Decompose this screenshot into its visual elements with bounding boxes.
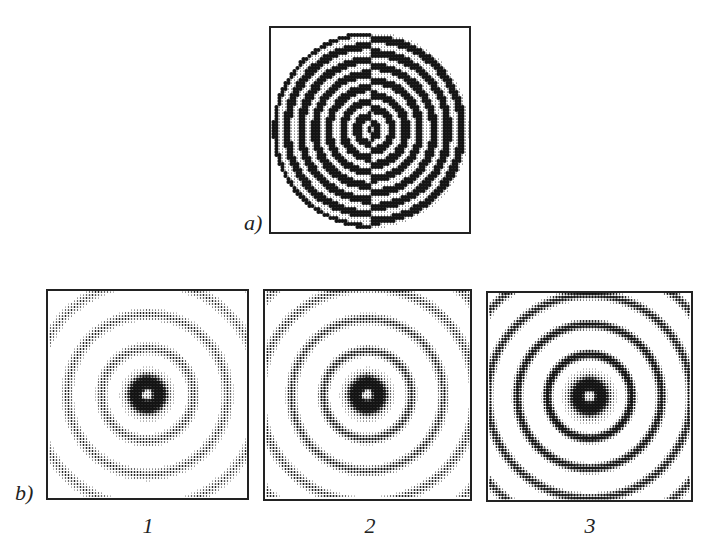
diffraction-pattern-1 [48, 291, 247, 498]
panel-b2-frame [263, 289, 472, 501]
panel-a-label: a) [244, 212, 262, 234]
panel-b-label: b) [15, 482, 33, 504]
subpanel-3-label: 3 [575, 515, 605, 537]
diffraction-pattern-2 [265, 291, 470, 499]
diffraction-pattern-3 [488, 293, 691, 500]
subpanel-2-label: 2 [355, 515, 385, 537]
panel-b1-frame [46, 289, 249, 500]
zone-plate-image [271, 28, 469, 232]
panel-b3-frame [486, 291, 693, 502]
panel-a-frame [269, 26, 471, 234]
subpanel-1-label: 1 [133, 515, 163, 537]
